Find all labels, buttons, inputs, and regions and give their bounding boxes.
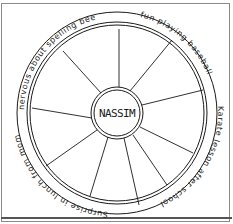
rim-label-lunch-surprise: Surprise in lunch from mom [12, 133, 108, 219]
wheel-diagram: NASSIM nervous about spelling bee fun pl… [0, 0, 233, 224]
center-label: NASSIM [99, 107, 136, 120]
